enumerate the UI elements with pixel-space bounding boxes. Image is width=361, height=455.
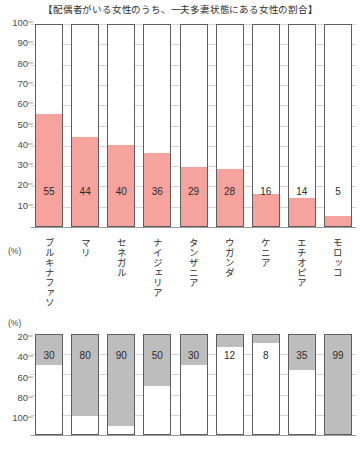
y-axis-tick-label: 40 [2,138,28,149]
y-axis-tick-mark [28,356,33,357]
x-axis-category-label: セネガル [116,238,126,278]
chart-polygamy-share: 55444036292816145 100908070605040302010(… [0,22,361,312]
x-axis-category-label: マリ [80,238,90,258]
chart-secondary-series: 30809050301283599 20406080100(%) [0,316,361,455]
bar-fill [217,169,243,226]
y-axis-tick-label: 20 [2,331,28,342]
y-axis-tick-label: 50 [2,118,28,129]
y-axis-tick-mark [28,123,33,124]
x-axis-category-label: ケニア [261,238,271,268]
y-axis-tick-mark [28,184,33,185]
axis-baseline [31,227,356,228]
bar-fill [72,335,98,416]
y-axis-tick-label: 40 [2,351,28,362]
bar-value-label: 30 [35,350,63,361]
bar-fill [289,198,315,226]
y-axis-tick-mark [28,143,33,144]
x-axis-category-label: ナイジェリア [152,238,162,298]
bar-value-label: 40 [107,186,135,197]
y-axis-tick-label: 80 [2,391,28,402]
bar-fill [108,335,134,426]
plot-area-upper: 55444036292816145 [31,24,356,227]
x-axis-category-label: エチオピア [297,238,307,288]
bar-fill [72,137,98,226]
bar-value-label: 16 [252,186,280,197]
figure-title: 【配偶者がいる女性のうち、一夫多妻状態にある女性の割合】 [0,2,361,16]
bar-value-label: 80 [71,350,99,361]
bar-value-label: 50 [143,350,171,361]
bar-value-label: 99 [324,350,352,361]
bar-fill [217,335,243,347]
bar-value-label: 28 [216,186,244,197]
y-axis-tick-label: 80 [2,57,28,68]
y-axis-tick-label: 90 [2,37,28,48]
y-axis-tick-mark [28,204,33,205]
y-axis-tick-label: 100 [2,17,28,28]
y-axis-tick-label: 60 [2,98,28,109]
bar-value-label: 29 [180,186,208,197]
bar-value-label: 12 [216,350,244,361]
plot-area-lower: 30809050301283599 [31,334,356,435]
y-axis-tick-label: 60 [2,371,28,382]
y-axis-tick-mark [28,22,33,23]
bar-value-label: 35 [288,350,316,361]
bar-value-label: 8 [252,350,280,361]
x-axis-category-label: モロッコ [333,238,343,278]
bar-fill [253,335,279,343]
y-axis-tick-label: 20 [2,179,28,190]
bar-fill [36,114,62,226]
bottom-caption [0,447,361,455]
bar-value-label: 14 [288,186,316,197]
y-axis-tick-mark [28,336,33,337]
y-axis-tick-mark [28,82,33,83]
y-axis-tick-mark [28,103,33,104]
y-axis-unit-label: (%) [8,318,21,328]
bar-value-label: 36 [143,186,171,197]
y-axis-tick-mark [28,62,33,63]
bar-value-label: 44 [71,186,99,197]
x-axis-category-label: ブルキナファソ [44,238,54,308]
y-axis-tick-mark [28,42,33,43]
bar-value-label: 30 [180,350,208,361]
y-axis-tick-label: 30 [2,159,28,170]
y-axis-tick-mark [28,376,33,377]
bar-value-label: 5 [324,186,352,197]
y-axis-tick-mark [28,417,33,418]
bar-value-label: 90 [107,350,135,361]
y-axis-tick-label: 100 [2,412,28,423]
y-axis-tick-label: 10 [2,199,28,210]
bar-fill [325,216,351,226]
axis-baseline [31,435,356,436]
y-axis-unit-label: (%) [8,246,21,256]
x-axis-category-label: ウガンダ [225,238,235,278]
bar-value-label: 55 [35,186,63,197]
y-axis-tick-mark [28,164,33,165]
y-axis-tick-mark [28,396,33,397]
bar-fill [253,194,279,226]
y-axis-tick-label: 70 [2,77,28,88]
x-axis-category-label: タンザニア [189,238,199,288]
